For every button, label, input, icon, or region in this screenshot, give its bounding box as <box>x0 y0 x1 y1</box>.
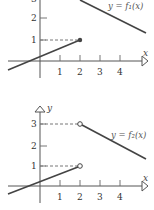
y-tick-label-1: 1 <box>31 35 37 45</box>
open-dot-icon <box>78 164 83 169</box>
x-tick-label-4: 4 <box>117 192 123 202</box>
x-tick-label-4: 4 <box>117 67 123 77</box>
graph-f1: 1 2 3 4 1 2 3 x y = f₁(x) <box>0 0 154 100</box>
f2-left-segment <box>8 167 78 194</box>
graph-f1-svg: 1 2 3 4 1 2 3 x y = f₁(x) <box>0 0 154 100</box>
x-axis-label: x <box>143 173 148 183</box>
open-dot-icon <box>78 122 83 127</box>
x-tick-label-1: 1 <box>57 67 63 77</box>
y-axis-arrow-icon <box>35 106 45 112</box>
graph-f2-svg: y x 1 2 3 4 1 2 3 y = f₂(x) <box>0 100 154 210</box>
function-label-f1: y = f₁(x) <box>107 1 143 11</box>
graph-f2: y x 1 2 3 4 1 2 3 y = f₂(x) <box>0 100 154 210</box>
y-tick-label-2: 2 <box>31 13 37 23</box>
y-tick-label-2: 2 <box>31 141 37 151</box>
f1-left-segment <box>8 40 80 70</box>
x-tick-label-3: 3 <box>97 192 103 202</box>
y-tick-label-3: 3 <box>31 0 37 4</box>
x-tick-label-2: 2 <box>77 67 83 77</box>
x-tick-label-1: 1 <box>57 192 63 202</box>
y-tick-label-3: 3 <box>31 119 37 129</box>
function-label-f2: y = f₂(x) <box>110 130 146 140</box>
y-axis-label: y <box>46 103 53 113</box>
closed-dot-icon <box>78 38 82 42</box>
x-tick-label-2: 2 <box>77 192 83 202</box>
y-tick-label-1: 1 <box>31 161 37 171</box>
x-axis-label: x <box>143 48 148 58</box>
x-tick-label-3: 3 <box>97 67 103 77</box>
